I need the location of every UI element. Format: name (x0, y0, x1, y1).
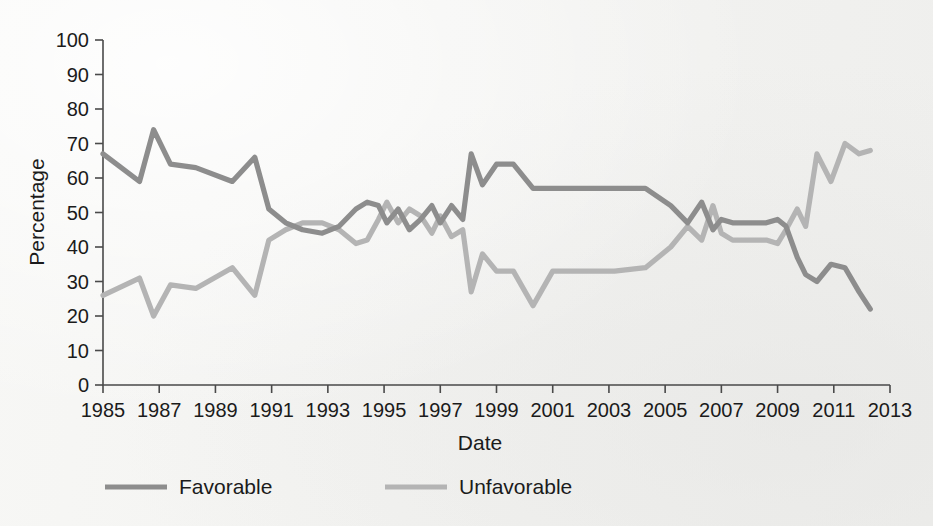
legend-label-unfavorable: Unfavorable (459, 475, 572, 498)
y-tick-label: 90 (67, 64, 89, 86)
y-tick-label: 60 (67, 167, 89, 189)
series-line-favorable (103, 130, 870, 309)
y-tick-label: 70 (67, 133, 89, 155)
x-tick-label: 1999 (474, 399, 519, 421)
x-tick-label: 2007 (699, 399, 744, 421)
x-tick-label: 1993 (306, 399, 351, 421)
chart-page: 0102030405060708090100 19851987198919911… (0, 0, 933, 526)
x-tick-label: 1997 (418, 399, 463, 421)
x-tick-label: 2001 (530, 399, 575, 421)
y-tick-label: 20 (67, 305, 89, 327)
y-axis-ticks (95, 40, 103, 385)
x-tick-label: 1995 (362, 399, 407, 421)
x-axis-ticks (103, 385, 890, 393)
line-chart: 0102030405060708090100 19851987198919911… (0, 0, 933, 526)
x-axis-title: Date (458, 431, 502, 454)
x-tick-label: 1991 (249, 399, 294, 421)
y-axis-tick-labels: 0102030405060708090100 (56, 29, 89, 396)
plot-area: 0102030405060708090100 19851987198919911… (56, 29, 913, 421)
y-tick-label: 10 (67, 340, 89, 362)
axis-lines (103, 40, 890, 385)
y-tick-label: 50 (67, 202, 89, 224)
x-tick-label: 1987 (137, 399, 182, 421)
x-tick-label: 2003 (587, 399, 632, 421)
y-tick-label: 80 (67, 98, 89, 120)
x-tick-label: 1985 (81, 399, 126, 421)
x-axis-tick-labels: 1985198719891991199319951997199920012003… (81, 399, 913, 421)
series-line-unfavorable (103, 144, 870, 317)
y-axis-title: Percentage (25, 158, 48, 265)
data-series-group (103, 130, 870, 316)
x-tick-label: 2011 (812, 399, 855, 421)
x-tick-label: 2009 (755, 399, 800, 421)
x-tick-label: 2013 (868, 399, 913, 421)
x-tick-label: 2005 (643, 399, 688, 421)
y-tick-label: 30 (67, 271, 89, 293)
y-tick-label: 40 (67, 236, 89, 258)
chart-legend: FavorableUnfavorable (105, 475, 572, 498)
legend-label-favorable: Favorable (179, 475, 272, 498)
x-tick-label: 1989 (193, 399, 238, 421)
y-tick-label: 100 (56, 29, 89, 51)
y-tick-label: 0 (78, 374, 89, 396)
